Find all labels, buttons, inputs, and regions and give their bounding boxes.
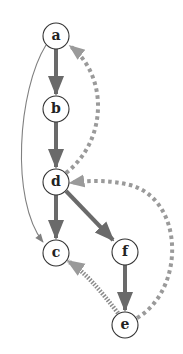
directed-graph: a b d c f e (0, 0, 183, 354)
edge-a-c (21, 45, 46, 242)
node-c: c (43, 240, 69, 266)
node-d-label: d (51, 173, 61, 189)
node-e-label: e (121, 316, 130, 332)
node-f-label: f (122, 243, 129, 259)
node-b: b (43, 96, 69, 122)
node-a: a (43, 23, 69, 49)
node-e: e (112, 312, 138, 338)
edge-d-a (66, 46, 98, 173)
node-d: d (43, 169, 69, 195)
node-a-label: a (51, 27, 60, 43)
node-b-label: b (51, 100, 61, 116)
edge-e-c (68, 261, 118, 313)
node-f: f (112, 239, 138, 265)
edge-d-f (66, 191, 113, 240)
node-c-label: c (52, 244, 61, 260)
